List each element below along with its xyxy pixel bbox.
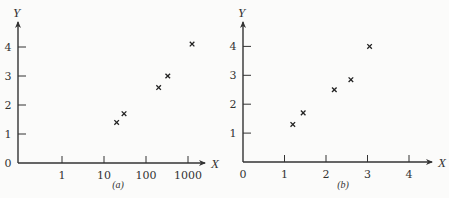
x-axis-label: X xyxy=(210,156,220,171)
x-tick-label: 4 xyxy=(406,168,413,181)
x-tick-label: 0 xyxy=(240,168,247,181)
panel-caption: (a) xyxy=(112,179,124,191)
data-point-x-marker xyxy=(367,44,372,49)
y-tick-label: 1 xyxy=(5,128,12,141)
x-tick-label: 2 xyxy=(323,168,330,181)
data-point-x-marker xyxy=(122,111,127,116)
y-tick-label: 4 xyxy=(230,40,237,53)
data-point-x-marker xyxy=(156,85,161,90)
data-point-x-marker xyxy=(332,87,337,92)
y-axis-label: Y xyxy=(13,5,22,20)
x-tick-label: 1 xyxy=(59,169,66,182)
x-tick-label: 100 xyxy=(136,169,157,182)
y-tick-label: 4 xyxy=(5,41,12,54)
panel-caption: (b) xyxy=(337,179,349,191)
data-point-x-marker xyxy=(291,122,296,127)
y-tick-label: 2 xyxy=(230,98,237,111)
x-tick-label: 1000 xyxy=(174,169,202,182)
data-point-x-marker xyxy=(165,74,170,79)
y-tick-label: 1 xyxy=(230,127,237,140)
y-axis-label: Y xyxy=(238,5,247,20)
panel-b: XY123401234(b) xyxy=(230,5,448,191)
data-point-x-marker xyxy=(301,111,306,116)
data-point-x-marker xyxy=(349,77,354,82)
x-tick-label: 1 xyxy=(281,168,288,181)
x-axis-label: X xyxy=(437,155,447,170)
x-tick-label: 10 xyxy=(97,169,111,182)
data-point-x-marker xyxy=(190,42,195,47)
data-point-x-marker xyxy=(114,120,119,125)
y-tick-label: 3 xyxy=(230,69,237,82)
origin-label: 0 xyxy=(5,157,12,170)
panel-a: XY123411010010000(a) xyxy=(5,5,221,191)
x-tick-label: 3 xyxy=(364,168,371,181)
y-tick-label: 3 xyxy=(5,70,12,83)
figure: XY123411010010000(a) XY123401234(b) xyxy=(0,0,449,198)
chart-canvas: XY123411010010000(a) XY123401234(b) xyxy=(0,0,449,198)
y-tick-label: 2 xyxy=(5,99,12,112)
